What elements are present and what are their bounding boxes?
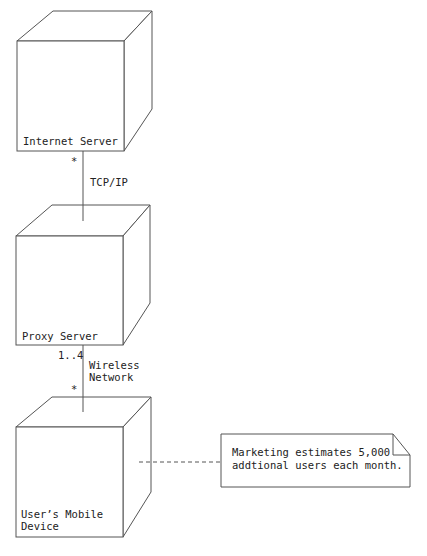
deployment-diagram: Internet Server * TCP/IP Proxy Server 1.… bbox=[0, 0, 427, 556]
node-label: Internet Server bbox=[23, 135, 118, 147]
link-label: TCP/IP bbox=[90, 176, 128, 188]
multiplicity-target: * bbox=[71, 383, 77, 395]
link-label-line-2: Network bbox=[89, 371, 134, 383]
note[interactable]: Marketing estimates 5,000 addtional user… bbox=[221, 434, 410, 487]
node-mobile-device[interactable]: User’s Mobile Device bbox=[16, 397, 151, 537]
node-label-line-2: Device bbox=[21, 520, 59, 532]
cube-front-face bbox=[16, 236, 123, 345]
note-text-line-2: addtional users each month. bbox=[232, 459, 403, 471]
multiplicity-source: 1..4 bbox=[58, 349, 83, 361]
node-internet-server[interactable]: Internet Server bbox=[17, 11, 152, 151]
multiplicity-source: * bbox=[71, 155, 77, 167]
node-proxy-server[interactable]: Proxy Server bbox=[16, 205, 150, 345]
node-label-line-1: User’s Mobile bbox=[21, 508, 103, 520]
node-label: Proxy Server bbox=[22, 330, 98, 342]
link-label-line-1: Wireless bbox=[89, 359, 140, 371]
note-text-line-1: Marketing estimates 5,000 bbox=[232, 446, 390, 458]
